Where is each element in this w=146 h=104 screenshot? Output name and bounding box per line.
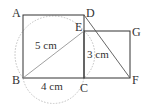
geometry-diagram: A D E G B C F 5 cm 3 cm 4 cm <box>0 0 146 104</box>
label-e: E <box>75 20 82 34</box>
label-d: D <box>86 6 95 20</box>
label-a: A <box>12 6 21 20</box>
label-g: G <box>132 25 141 39</box>
label-f: F <box>132 73 139 87</box>
measure-ec: 3 cm <box>87 48 109 60</box>
measure-bc: 4 cm <box>41 80 63 92</box>
label-c: C <box>80 81 88 95</box>
label-b: B <box>12 73 20 87</box>
measure-be: 5 cm <box>35 39 57 51</box>
